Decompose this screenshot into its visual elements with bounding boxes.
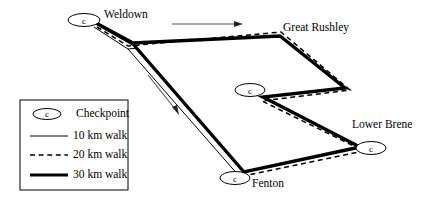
- checkpoint-mid: c: [235, 84, 265, 97]
- legend-label-walk20: 20 km walk: [73, 149, 127, 161]
- walk-route-map: c c c c c Weldown Grea: [0, 0, 431, 202]
- direction-arrow-top-head: [234, 21, 243, 27]
- legend-label-walk30: 30 km walk: [73, 169, 127, 181]
- place-label-lower-brene: Lower Brene: [352, 119, 412, 131]
- checkpoint-fenton-letter: c: [233, 174, 237, 184]
- map-canvas: c c c c c: [0, 0, 431, 202]
- place-label-weldown: Weldown: [104, 9, 148, 21]
- direction-arrow-top: [172, 21, 243, 27]
- checkpoint-lower-brene-letter: c: [369, 144, 373, 154]
- checkpoint-weldown: c: [68, 14, 100, 27]
- checkpoint-weldown-letter: c: [82, 16, 86, 26]
- place-label-great-rushley: Great Rushley: [283, 22, 349, 34]
- direction-arrow-diagonal-shaft: [148, 75, 175, 109]
- checkpoint-fenton: c: [220, 172, 250, 185]
- checkpoint-mid-letter: c: [248, 86, 252, 96]
- legend-label-checkpoint: Checkpoint: [76, 108, 129, 120]
- checkpoint-lower-brene: c: [356, 142, 386, 155]
- legend-checkpoint-letter: c: [45, 109, 49, 119]
- place-label-fenton: Fenton: [252, 178, 284, 190]
- legend-label-walk10: 10 km walk: [73, 130, 127, 142]
